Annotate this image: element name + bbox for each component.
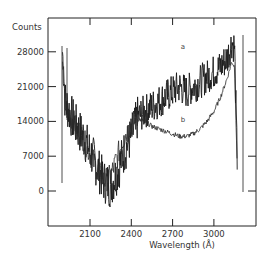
series-a-line [63,36,238,207]
x-tick-label: 2700 [162,229,184,239]
y-tick-label: 14000 [17,116,44,126]
spectrum-chart: 07000140002100028000 2100240027003000 ab… [0,0,270,262]
y-axis-label: Counts [12,22,42,32]
y-tick-label: 0 [39,186,44,196]
x-axis-label: Wavelength (Å) [149,239,215,250]
curve-label-b: b [181,116,186,124]
x-tick-label: 2100 [79,229,101,239]
spectrum-curves [62,35,243,207]
curve-label-a: a [181,43,185,51]
plot-frame [48,18,256,226]
x-tick-label: 2400 [120,229,142,239]
x-tick-label: 3000 [203,229,225,239]
y-tick-label: 28000 [17,47,44,57]
y-tick-label: 7000 [22,151,44,161]
y-tick-label: 21000 [17,82,44,92]
